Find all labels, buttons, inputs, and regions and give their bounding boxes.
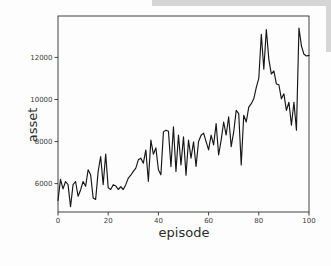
x-tick-label: 0 — [56, 217, 60, 225]
y-tick-label: 12000 — [30, 54, 52, 62]
x-tick-label: 100 — [302, 217, 315, 225]
y-tick-label: 10000 — [30, 96, 52, 104]
y-axis-label: asset — [25, 108, 40, 143]
plot-border — [58, 16, 309, 212]
x-tick-label: 80 — [254, 217, 263, 225]
x-tick-label: 40 — [154, 217, 163, 225]
x-tick-label: 20 — [104, 217, 113, 225]
x-tick-label: 60 — [204, 217, 213, 225]
line-chart-figure: 020406080100600080001000012000 episode a… — [0, 0, 331, 266]
y-tick-label: 6000 — [35, 180, 53, 188]
x-axis-label: episode — [159, 225, 210, 240]
asset-line-series — [58, 28, 309, 207]
asset-vs-episode-plot: 020406080100600080001000012000 episode a… — [0, 0, 331, 266]
